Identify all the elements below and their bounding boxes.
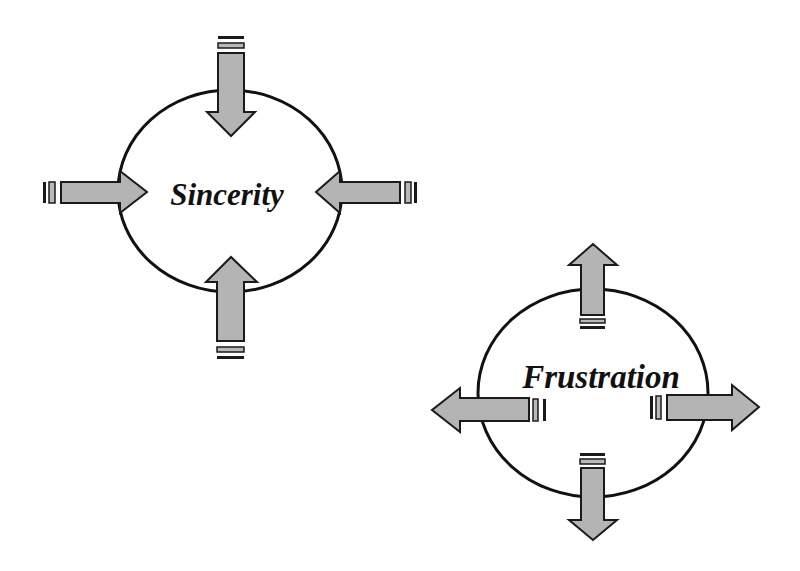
diagram-canvas: Sincerity Frustration	[0, 0, 800, 571]
frustration-label: Frustration	[521, 359, 680, 395]
frustration-diagram: Frustration	[432, 244, 759, 540]
sincerity-label: Sincerity	[170, 177, 284, 212]
sincerity-diagram: Sincerity	[43, 36, 417, 359]
